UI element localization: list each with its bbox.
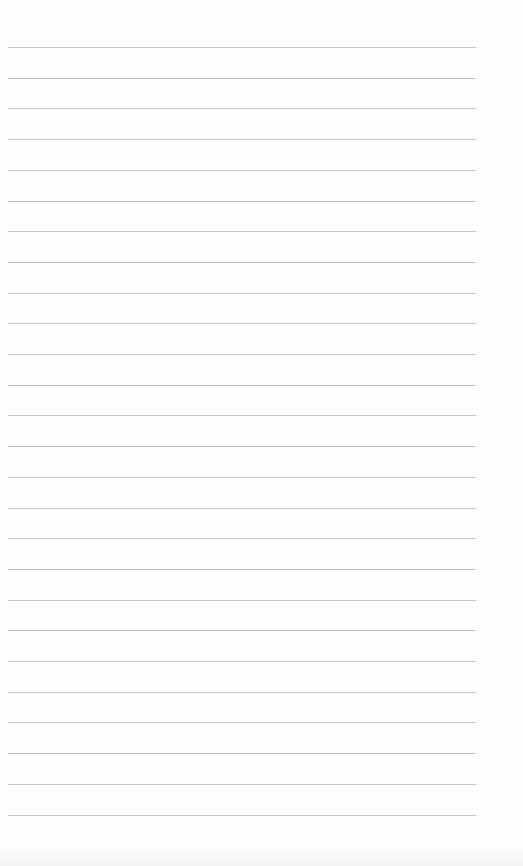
ruled-line bbox=[8, 47, 476, 48]
ruled-line bbox=[8, 262, 476, 263]
page-bottom-shadow bbox=[0, 840, 523, 866]
ruled-line bbox=[8, 722, 476, 723]
ruled-line bbox=[8, 753, 476, 754]
ruled-line bbox=[8, 477, 476, 478]
ruled-line bbox=[8, 78, 476, 79]
ruled-line bbox=[8, 415, 476, 416]
ruled-line bbox=[8, 784, 476, 785]
ruled-line bbox=[8, 139, 476, 140]
ruled-line bbox=[8, 815, 476, 816]
ruled-line bbox=[8, 231, 476, 232]
ruled-line bbox=[8, 661, 476, 662]
lined-paper-page bbox=[0, 0, 523, 866]
ruled-line bbox=[8, 508, 476, 509]
ruled-line bbox=[8, 108, 476, 109]
ruled-line bbox=[8, 354, 476, 355]
ruled-line bbox=[8, 293, 476, 294]
ruled-line bbox=[8, 569, 476, 570]
ruled-line bbox=[8, 630, 476, 631]
ruled-line bbox=[8, 201, 476, 202]
ruled-line bbox=[8, 538, 476, 539]
ruled-line bbox=[8, 385, 476, 386]
ruled-line bbox=[8, 600, 476, 601]
ruled-line bbox=[8, 170, 476, 171]
ruled-line bbox=[8, 692, 476, 693]
ruled-line bbox=[8, 446, 476, 447]
ruled-line bbox=[8, 323, 476, 324]
